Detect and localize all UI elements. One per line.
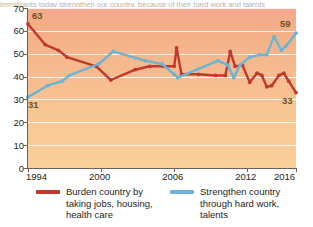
data-point (172, 72, 176, 76)
y-tick-label: 50 (2, 49, 24, 58)
data-point (148, 64, 152, 68)
data-point (294, 31, 298, 35)
data-point (226, 63, 230, 67)
data-point (228, 50, 232, 54)
data-point (265, 53, 269, 57)
data-label: 59 (280, 19, 291, 29)
y-tick-mark (23, 8, 27, 9)
y-tick-label: 30 (2, 95, 24, 104)
data-point (97, 62, 101, 66)
data-point (133, 68, 137, 72)
data-point (143, 59, 147, 63)
y-tick-mark (23, 145, 27, 146)
legend-label-burden: Burden country by taking jobs, housing, … (66, 186, 161, 221)
x-axis (27, 168, 297, 169)
data-point (284, 44, 288, 48)
y-tick-mark (23, 54, 27, 55)
y-tick-label: 60 (2, 26, 24, 35)
data-point (68, 74, 72, 78)
x-tick-mark (247, 168, 248, 172)
data-point (260, 74, 264, 78)
y-tick-label: 10 (2, 141, 24, 150)
legend-swatch-burden (36, 190, 60, 194)
data-label: 33 (282, 96, 293, 106)
data-point (60, 79, 64, 83)
data-point (282, 71, 286, 75)
data-point (233, 64, 237, 68)
x-tick-mark (101, 168, 102, 172)
data-point (214, 74, 218, 78)
y-tick-mark (23, 122, 27, 123)
y-tick-mark (23, 168, 27, 169)
cut-off-headline: immigrants today strengthen our country,… (0, 0, 313, 7)
y-tick-label: 0 (2, 164, 24, 173)
data-point (258, 53, 262, 57)
legend: Burden country by taking jobs, housing, … (0, 186, 313, 227)
x-tick-label: 2016 (274, 172, 295, 182)
y-tick-mark (23, 31, 27, 32)
x-tick-mark (296, 168, 297, 172)
data-point (109, 78, 113, 82)
data-point (216, 59, 220, 63)
legend-item-strengthen: Strengthen country through hard work, ta… (170, 186, 300, 221)
data-point (265, 85, 269, 89)
data-point (277, 74, 281, 78)
x-tick-label: 2012 (235, 172, 256, 182)
x-tick-mark (28, 168, 29, 172)
data-point (43, 43, 47, 47)
y-tick-mark (23, 99, 27, 100)
data-point (232, 76, 236, 80)
data-label: 63 (32, 11, 43, 21)
chart-container: immigrants today strengthen our country,… (0, 0, 313, 227)
y-tick-mark (23, 77, 27, 78)
legend-label-strengthen: Strengthen country through hard work, ta… (200, 186, 300, 221)
y-tick-label: 20 (2, 118, 24, 127)
x-tick-label: 2006 (162, 172, 183, 182)
legend-swatch-strengthen (170, 190, 194, 194)
data-point (272, 35, 276, 39)
legend-item-burden: Burden country by taking jobs, housing, … (36, 186, 161, 221)
data-point (248, 55, 252, 59)
data-point (65, 55, 69, 59)
data-point (46, 84, 50, 88)
data-point (223, 74, 227, 78)
plot-area (28, 8, 296, 168)
data-label: 31 (28, 100, 39, 110)
x-tick-label: 2000 (89, 172, 110, 182)
data-point (287, 79, 291, 83)
data-point (255, 71, 259, 75)
y-tick-label: 40 (2, 72, 24, 81)
y-axis (27, 8, 28, 169)
x-tick-label: 1994 (26, 172, 47, 182)
data-point (238, 63, 242, 67)
x-tick-mark (174, 168, 175, 172)
data-point (270, 84, 274, 88)
data-point (197, 72, 201, 76)
data-point (279, 48, 283, 52)
y-tick-label: 70 (2, 4, 24, 13)
data-point (160, 62, 164, 66)
series-lines (28, 8, 296, 168)
data-point (294, 91, 298, 95)
data-point (248, 80, 252, 84)
data-point (111, 50, 115, 54)
data-point (172, 64, 176, 68)
data-point (176, 76, 180, 80)
data-point (175, 46, 179, 50)
data-point (57, 48, 61, 52)
